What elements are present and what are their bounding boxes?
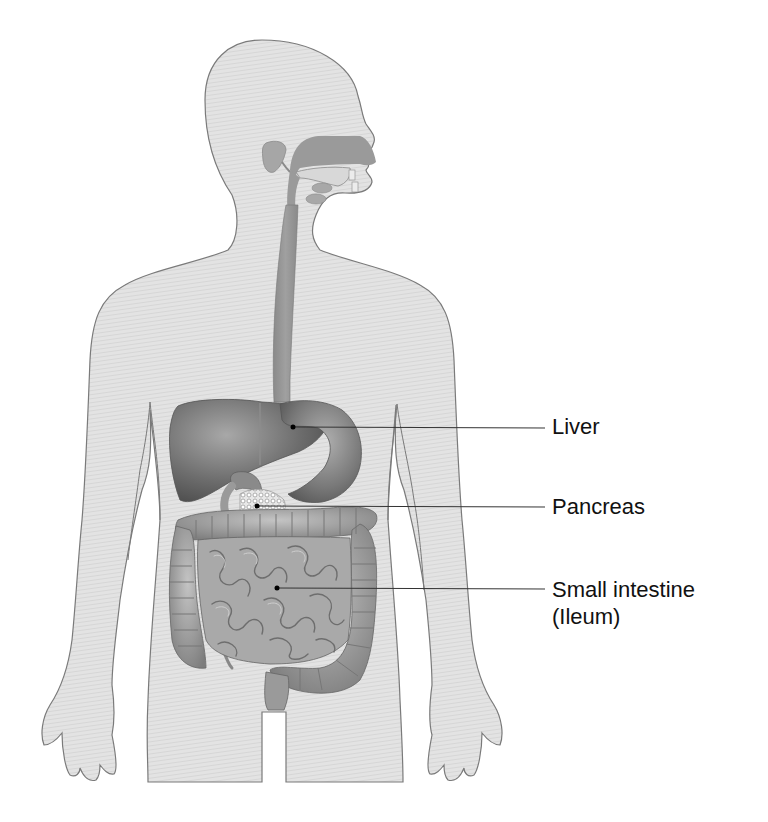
label-pancreas: Pancreas (552, 494, 645, 520)
label-liver-text: Liver (552, 414, 600, 440)
anchor-dot-pancreas (255, 504, 260, 509)
label-pancreas-text: Pancreas (552, 494, 645, 520)
teeth-upper (349, 170, 355, 180)
anchor-dot-small-intestine (275, 586, 280, 591)
small-intestine (197, 537, 351, 664)
label-small-intestine-sublabel: (Ileum) (552, 603, 695, 630)
label-small-intestine: Small intestine (Ileum) (552, 576, 695, 630)
teeth-lower (352, 182, 358, 192)
label-small-intestine-text: Small intestine (552, 576, 695, 603)
label-liver: Liver (552, 414, 600, 440)
salivary-gland-sublingual (312, 183, 332, 193)
salivary-gland-submandibular (306, 194, 326, 204)
rectum (265, 672, 289, 710)
digestive-system-illustration (0, 0, 768, 822)
anchor-dot-liver (291, 425, 296, 430)
